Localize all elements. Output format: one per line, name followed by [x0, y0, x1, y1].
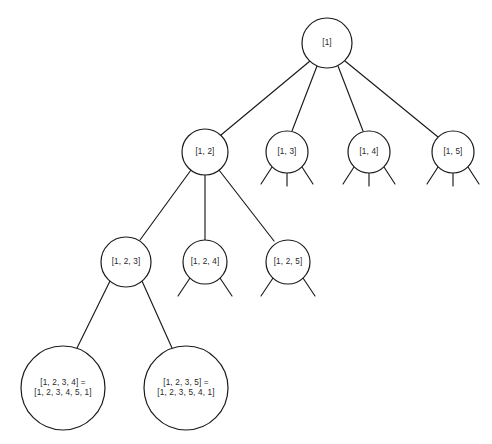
tree-node[interactable]: [1, 2, 3, 5] =[1, 2, 3, 5, 4, 1] — [144, 346, 228, 430]
tree-stub-edge — [384, 167, 395, 184]
tree-node[interactable]: [1, 2] — [182, 129, 228, 175]
tree-stub-edge — [178, 278, 190, 296]
tree-edge — [338, 66, 363, 131]
stubs-layer — [178, 167, 479, 296]
tree-node[interactable]: [1, 5] — [432, 131, 474, 173]
node-label: [1, 2, 3, 5] = — [163, 378, 209, 387]
tree-node[interactable]: [1, 4] — [348, 131, 390, 173]
tree-edge — [142, 281, 172, 348]
node-label: [1, 2, 3, 5, 4, 1] — [157, 388, 214, 397]
tree-node[interactable]: [1, 2, 5] — [266, 240, 310, 284]
nodes-layer: [1][1, 2][1, 3][1, 4][1, 5][1, 2, 3][1, … — [21, 18, 474, 430]
tree-diagram: [1][1, 2][1, 3][1, 4][1, 5][1, 2, 3][1, … — [0, 0, 492, 444]
node-label: [1, 4] — [359, 147, 378, 156]
tree-edge — [292, 66, 317, 131]
tree-edge — [77, 281, 110, 348]
tree-node[interactable]: [1, 3] — [266, 131, 308, 173]
tree-stub-edge — [302, 167, 313, 184]
node-label: [1, 2, 3] — [112, 257, 141, 266]
tree-stub-edge — [343, 167, 354, 184]
tree-stub-edge — [261, 278, 273, 296]
tree-edge — [140, 170, 191, 240]
node-label: [1, 2, 4] — [191, 257, 220, 266]
node-label: [1, 3] — [277, 147, 296, 156]
tree-edge — [219, 170, 274, 241]
tree-node[interactable]: [1, 2, 3, 4] =[1, 2, 3, 4, 5, 1] — [21, 346, 105, 430]
node-label: [1, 5] — [443, 147, 462, 156]
tree-edge — [221, 61, 310, 135]
tree-node[interactable]: [1, 2, 3] — [101, 237, 151, 287]
tree-node[interactable]: [1, 2, 4] — [183, 240, 227, 284]
node-label: [1, 2, 3, 4] = — [40, 378, 86, 387]
tree-node[interactable]: [1] — [302, 18, 352, 68]
edges-layer — [77, 61, 438, 348]
node-label: [1] — [322, 38, 332, 47]
tree-canvas: [1][1, 2][1, 3][1, 4][1, 5][1, 2, 3][1, … — [0, 0, 492, 444]
node-label: [1, 2, 3, 4, 5, 1] — [34, 388, 91, 397]
tree-stub-edge — [427, 167, 438, 184]
node-label: [1, 2] — [195, 147, 214, 156]
tree-stub-edge — [468, 167, 479, 184]
node-label: [1, 2, 5] — [274, 257, 303, 266]
tree-edge — [345, 61, 438, 137]
tree-stub-edge — [220, 278, 232, 296]
tree-stub-edge — [261, 167, 272, 184]
tree-stub-edge — [303, 278, 315, 296]
